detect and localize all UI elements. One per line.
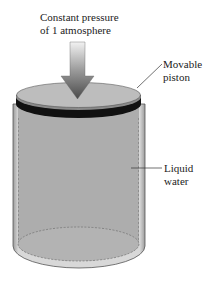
pressure-label-line1: Constant pressure [40,11,119,23]
liquid-water [18,108,139,261]
liquid-label-line1: Liquid [164,162,194,174]
pressure-label-line2: of 1 atmosphere [40,24,111,36]
liquid-label-line2: water [164,175,189,187]
piston-leader-line [137,64,162,88]
piston-label-line2: piston [163,71,190,83]
piston-label-line1: Movable [163,58,202,70]
piston-cylinder-diagram: Constant pressure of 1 atmosphere Movabl… [0,0,208,285]
